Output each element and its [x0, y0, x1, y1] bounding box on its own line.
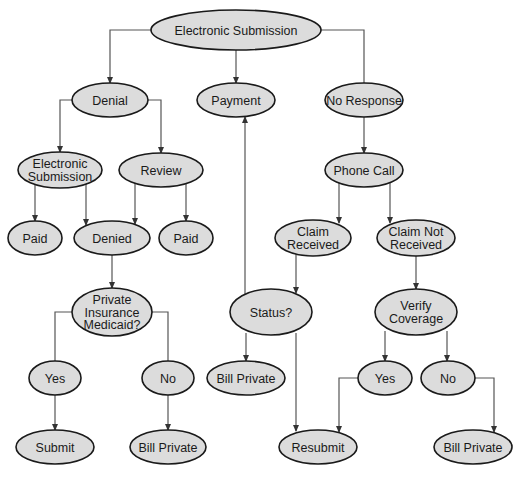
node-layer: Electronic SubmissionDenialPaymentNo Res… — [8, 10, 512, 464]
node-yes-2: Yes — [358, 361, 412, 395]
node-verify-coverage: VerifyCoverage — [375, 289, 457, 335]
node-resubmit: Resubmit — [279, 430, 357, 464]
node-label: Denial — [92, 94, 127, 108]
node-denial: Denial — [72, 83, 148, 117]
node-label: No — [440, 372, 456, 386]
node-review: Review — [119, 153, 203, 187]
node-label: Status? — [250, 306, 292, 320]
node-label: Bill Private — [216, 372, 275, 386]
node-no-2: No — [421, 361, 475, 395]
node-label: Electronic Submission — [175, 24, 298, 38]
edge-denial-to-review — [148, 100, 161, 153]
edge-denial-to-electronic-submission-2 — [60, 100, 72, 152]
node-private-insurance: PrivateInsuranceMedicaid? — [72, 288, 152, 336]
node-bill-private-left: Bill Private — [130, 430, 206, 464]
edge-private-insurance-to-no-1 — [152, 312, 168, 361]
node-root: Electronic Submission — [151, 10, 321, 50]
edge-root-to-no-response — [321, 30, 364, 83]
node-label: Paid — [22, 232, 47, 246]
edge-private-insurance-to-yes-1 — [55, 312, 72, 361]
node-bill-private-center: Bill Private — [207, 361, 285, 395]
node-label: Received — [287, 238, 339, 252]
node-label: No Response — [326, 94, 402, 108]
node-label: Resubmit — [292, 441, 345, 455]
node-label: Bill Private — [443, 441, 502, 455]
node-payment: Payment — [197, 83, 275, 117]
node-label: Paid — [173, 232, 198, 246]
node-label: Medicaid? — [84, 318, 141, 332]
node-label: No — [160, 372, 176, 386]
node-denied: Denied — [74, 221, 150, 255]
node-paid-2: Paid — [159, 221, 213, 255]
node-label: Coverage — [389, 312, 443, 326]
node-paid-1: Paid — [8, 221, 62, 255]
node-label: Submit — [36, 441, 75, 455]
node-claim-not-received: Claim NotReceived — [377, 220, 455, 256]
node-electronic-submission-2: ElectronicSubmission — [18, 152, 102, 188]
node-label: Review — [141, 164, 183, 178]
node-label: Yes — [45, 372, 65, 386]
node-status: Status? — [230, 289, 312, 335]
node-bill-private-right: Bill Private — [434, 430, 512, 464]
node-submit: Submit — [16, 430, 94, 464]
node-label: Denied — [92, 232, 132, 246]
claim-followup-flowchart: Electronic SubmissionDenialPaymentNo Res… — [0, 0, 514, 477]
node-label: Submission — [28, 170, 93, 184]
edge-no-2-to-bill-private-right — [475, 378, 494, 432]
node-label: Bill Private — [138, 441, 197, 455]
node-claim-received: ClaimReceived — [275, 220, 351, 256]
edge-yes-2-to-resubmit — [339, 378, 358, 432]
node-no-1: No — [142, 361, 194, 395]
node-label: Received — [390, 238, 442, 252]
node-yes-1: Yes — [29, 361, 81, 395]
node-phone-call: Phone Call — [325, 153, 403, 187]
node-label: Phone Call — [333, 164, 394, 178]
node-label: Yes — [375, 372, 395, 386]
node-no-response: No Response — [325, 83, 403, 117]
edge-root-to-denial — [110, 30, 151, 83]
node-label: Payment — [211, 94, 261, 108]
